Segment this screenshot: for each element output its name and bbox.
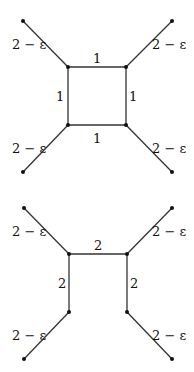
node (170, 206, 174, 210)
node (66, 123, 70, 127)
label-leaf-bl: 2 − ε (12, 328, 46, 343)
node (124, 65, 128, 69)
label-leaf-tr: 2 − ε (152, 224, 186, 239)
label-top: 1 (93, 51, 101, 66)
label-right: 2 (130, 276, 138, 291)
node (22, 206, 26, 210)
label-leaf-br: 2 − ε (152, 328, 186, 343)
graph-figure: 2 − ε 2 − ε 2 − ε 2 − ε 1 1 1 1 2 − ε 2 … (0, 0, 194, 372)
node (21, 19, 25, 23)
node (170, 357, 174, 361)
diagram-1: 2 − ε 2 − ε 2 − ε 2 − ε 1 1 1 1 (12, 19, 186, 174)
node (22, 357, 26, 361)
label-top: 2 (94, 238, 102, 253)
label-leaf-tr: 2 − ε (152, 37, 186, 52)
label-leaf-tl: 2 − ε (12, 37, 46, 52)
node (170, 170, 174, 174)
label-leaf-br: 2 − ε (152, 141, 186, 156)
label-right: 1 (129, 89, 137, 104)
node (125, 252, 129, 256)
node (67, 310, 71, 314)
label-left: 1 (56, 89, 64, 104)
node (67, 252, 71, 256)
label-leaf-bl: 2 − ε (12, 141, 46, 156)
node (125, 310, 129, 314)
label-left: 2 (58, 276, 66, 291)
label-leaf-tl: 2 − ε (12, 224, 46, 239)
label-bottom: 1 (93, 131, 101, 146)
node (170, 19, 174, 23)
diagram-2: 2 − ε 2 − ε 2 − ε 2 − ε 2 2 2 (12, 206, 186, 361)
node (66, 65, 70, 69)
node (21, 170, 25, 174)
node (124, 123, 128, 127)
